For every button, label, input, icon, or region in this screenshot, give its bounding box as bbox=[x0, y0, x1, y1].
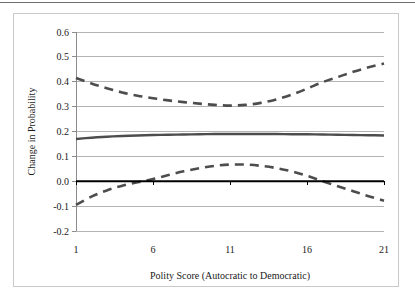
top-horizontal-rule bbox=[0, 2, 415, 3]
y-tick-label-1: -0.1 bbox=[53, 201, 69, 212]
figure-container: -0.2-0.10.00.10.20.30.40.50.616111621Pol… bbox=[0, 0, 415, 304]
y-tick-label-7: 0.5 bbox=[57, 51, 70, 62]
line-chart: -0.2-0.10.00.10.20.30.40.50.616111621Pol… bbox=[13, 13, 399, 287]
x-axis-title: Polity Score (Autocratic to Democratic) bbox=[150, 270, 310, 282]
x-tick-label-2: 11 bbox=[225, 244, 235, 255]
y-tick-label-6: 0.4 bbox=[57, 76, 70, 87]
x-tick-label-0: 1 bbox=[74, 244, 79, 255]
y-tick-label-4: 0.2 bbox=[57, 126, 70, 137]
y-tick-label-8: 0.6 bbox=[57, 27, 70, 38]
y-tick-label-5: 0.3 bbox=[57, 101, 70, 112]
y-tick-label-0: -0.2 bbox=[53, 226, 69, 237]
y-axis-title: Change in Probability bbox=[26, 88, 37, 176]
y-tick-label-2: 0.0 bbox=[57, 176, 70, 187]
y-tick-label-3: 0.1 bbox=[57, 151, 70, 162]
x-tick-label-3: 16 bbox=[302, 244, 312, 255]
x-tick-label-1: 6 bbox=[151, 244, 156, 255]
x-tick-label-4: 21 bbox=[379, 244, 389, 255]
